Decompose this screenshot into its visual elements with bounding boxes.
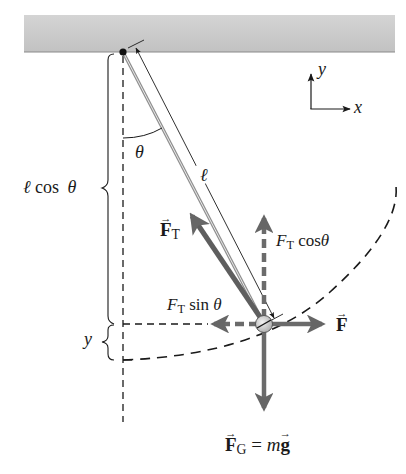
gravity-mass: m: [267, 434, 281, 455]
y-axis-label: y: [318, 60, 326, 78]
x-axis-label: x: [354, 98, 362, 116]
tension-cos-symbol: F: [276, 231, 286, 250]
tension-sin-symbol: F: [167, 295, 177, 314]
theta-arc: [123, 128, 162, 138]
pendulum-string-core: [123, 52, 264, 324]
gravity-symbol: F: [225, 435, 237, 454]
pivot-point: [119, 48, 126, 55]
gravity-g: g: [280, 435, 290, 454]
applied-force-label: F: [336, 315, 348, 334]
gravity-equals: =: [251, 434, 262, 455]
ceiling: [24, 15, 395, 52]
tension-sin-subscript: T: [177, 302, 184, 316]
gravity-subscript: G: [237, 442, 247, 457]
theta-label: θ: [135, 143, 144, 161]
l-cos-theta-bracket: [102, 54, 114, 324]
pendulum-diagram: [0, 0, 406, 474]
tension-sin-label: FT sin θ: [167, 296, 222, 315]
tension-symbol: F: [160, 220, 172, 239]
tension-cos-theta: θ: [321, 231, 329, 250]
tension-cos-label: FT cosθ: [276, 232, 329, 251]
applied-force-symbol: F: [336, 315, 348, 334]
tension-label: FT: [160, 220, 180, 242]
tension-sin-func: sin: [189, 295, 209, 314]
length-label: ℓ: [200, 166, 208, 184]
tension-cos-func: cos: [298, 231, 321, 250]
ell-symbol: ℓ: [23, 177, 31, 197]
gravity-label: FG = mg: [225, 435, 290, 457]
theta-symbol: θ: [68, 177, 77, 197]
tension-sin-theta: θ: [213, 295, 221, 314]
l-cos-theta-label: ℓ cos θ: [23, 178, 76, 196]
tension-cos-subscript: T: [286, 238, 293, 252]
y-height-label: y: [84, 330, 92, 348]
y-height-bracket: [102, 325, 114, 360]
tension-subscript: T: [172, 227, 180, 242]
cos-text: cos: [35, 177, 59, 197]
